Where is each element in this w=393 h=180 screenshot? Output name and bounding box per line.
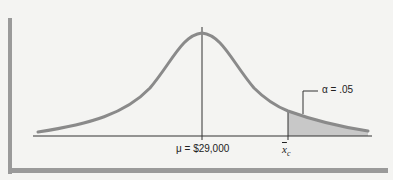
alpha-label: α = .05: [322, 84, 353, 95]
alpha-leader-line: [303, 91, 318, 114]
critical-value-subscript: c: [287, 149, 291, 158]
mean-label: μ = $29,000: [176, 143, 229, 154]
bell-curve: [38, 33, 368, 132]
critical-value-label: xc: [282, 143, 290, 158]
normal-distribution-figure: μ = $29,000 xc α = .05: [0, 0, 393, 180]
